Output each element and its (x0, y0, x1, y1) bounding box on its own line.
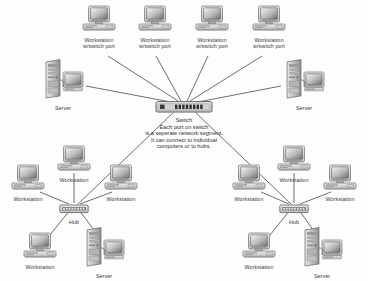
workstation-icon (242, 232, 276, 259)
workstation-icon (82, 5, 116, 32)
node-label: Workstation (57, 177, 91, 183)
server-icon (82, 226, 126, 268)
switch-description: Switch Each port on switch is a seperate… (145, 117, 223, 150)
network-diagram: Workstation w/switch port Workstation w/… (0, 0, 368, 281)
node-label: Workstation (138, 37, 172, 43)
workstation-icon (232, 164, 266, 191)
node-label: Workstation (23, 264, 57, 270)
workstation-icon (252, 5, 286, 32)
workstation-icon (57, 145, 91, 172)
workstation-icon (195, 5, 229, 32)
server-icon (282, 58, 326, 100)
node-label: Workstation (11, 196, 45, 202)
switch-description-line-3: is a seperate network segment. (145, 130, 223, 137)
server-icon (41, 58, 85, 100)
node-label: Server (82, 273, 126, 279)
node-label-secondary: w/switch port (195, 43, 229, 49)
node-label-secondary: w/switch port (138, 43, 172, 49)
link-switch-ws-top-3 (187, 56, 208, 101)
switch-description-line-2: Each port on switch (145, 124, 223, 131)
node-label: Workstation (195, 37, 229, 43)
node-label: Server (300, 273, 344, 279)
node-label: Hub (279, 219, 309, 225)
workstation-icon (323, 164, 357, 191)
node-label-secondary: w/switch port (252, 43, 286, 49)
workstation-icon (23, 232, 57, 259)
workstation-icon (138, 5, 172, 32)
node-label: Workstation (104, 196, 138, 202)
link-switch-ws-top-4 (190, 56, 262, 101)
node-label: Workstation (323, 196, 357, 202)
node-label: Hub (59, 219, 89, 225)
switch-description-line-5: computers or to hubs. (145, 143, 223, 150)
node-label: Workstation (277, 177, 311, 183)
node-label: Server (282, 105, 326, 111)
node-label: Workstation (232, 196, 266, 202)
link-switch-ws-top-1 (108, 56, 178, 101)
node-label-secondary: w/switch port (82, 43, 116, 49)
switch-description-line-1: Switch (145, 117, 223, 124)
workstation-icon (104, 164, 138, 191)
workstation-icon (277, 145, 311, 172)
server-icon (300, 226, 344, 268)
switch-icon (155, 100, 213, 114)
node-label: Server (41, 105, 85, 111)
node-label: Workstation (242, 264, 276, 270)
node-label: Workstation (252, 37, 286, 43)
switch-description-line-4: It can connect to individual (145, 137, 223, 144)
link-switch-ws-top-2 (156, 56, 181, 101)
node-label: Workstation (82, 37, 116, 43)
workstation-icon (11, 164, 45, 191)
hub-icon (59, 204, 89, 214)
hub-icon (279, 204, 309, 214)
